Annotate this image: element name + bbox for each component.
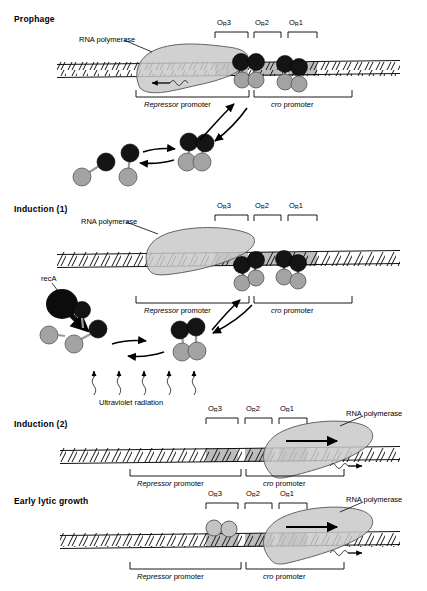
repressor-promoter-label-p3: Repressor promoter: [137, 479, 204, 488]
panel-prophage-art: [57, 32, 400, 186]
repressor-monomer-cleaved-p2: [65, 320, 107, 353]
operator-label-or3-p3: OR3: [208, 404, 222, 413]
operator-label-or1-p1: OR1: [289, 18, 303, 27]
operator-label-or2-p1: OR2: [255, 18, 269, 27]
repressor-dimer-or2-p2: [234, 252, 265, 292]
operator-brackets-p3: [206, 418, 307, 424]
release-arrows-p2: [212, 300, 252, 333]
uv-radiation-label: Ultraviolet radiation: [99, 398, 163, 407]
operator-label-or2-p4: OR2: [246, 489, 260, 498]
operator-brackets-p4: [206, 503, 307, 509]
repressor-monomer-b-p1: [119, 144, 139, 186]
repressor-dimer-free-p2: [171, 318, 206, 361]
repressor-dimer-or1-p2: [276, 251, 307, 290]
rna-polymerase-label-p2: RNA polymerase: [81, 217, 137, 226]
operator-label-or2-p3: OR2: [246, 404, 260, 413]
cro-promoter-label-p4: cro promoter: [263, 572, 306, 581]
operator-brackets-p1: [215, 32, 317, 38]
equilibrium-arrows-p1: [140, 148, 175, 163]
panel-title-induction-2: Induction (2): [14, 419, 68, 429]
repressor-promoter-label-p2: Repressor promoter: [144, 306, 211, 315]
uv-radiation-arrows: [92, 371, 196, 395]
operator-label-or1-p2: OR1: [289, 201, 303, 210]
transcript-arrow-p3: [330, 464, 362, 469]
reca-label: recA: [41, 274, 56, 283]
rna-polymerase-p1: [137, 44, 248, 93]
transcript-arrow-p4: [330, 551, 362, 556]
equilibrium-arrows-p2: [112, 340, 164, 356]
cro-promoter-label-p2: cro promoter: [271, 306, 314, 315]
panel-title-induction-1: Induction (1): [14, 204, 68, 214]
repressor-dimer-free-p1: [178, 133, 214, 171]
cro-promoter-label-p1: cro promoter: [271, 100, 314, 109]
rna-polymerase-label-p3: RNA polymerase: [346, 409, 402, 418]
rna-polymerase-p4: [264, 507, 373, 564]
panel-induction2-art: [60, 416, 400, 478]
operator-label-or3-p2: OR3: [217, 201, 231, 210]
repressor-promoter-label-p4: Repressor promoter: [137, 572, 204, 581]
operator-label-or3-p1: OR3: [217, 18, 231, 27]
operator-label-or1-p4: OR1: [280, 489, 294, 498]
repressor-promoter-label-p1: Repressor promoter: [144, 100, 211, 109]
cro-promoter-label-p3: cro promoter: [263, 479, 306, 488]
promoter-brackets-p4: [130, 562, 344, 569]
promoter-brackets-p2: [136, 296, 352, 303]
operator-label-or3-p4: OR3: [208, 489, 222, 498]
rna-polymerase-label-p1: RNA polymerase: [79, 35, 135, 44]
panel-earlylytic-art: [60, 502, 400, 569]
operator-label-or1-p3: OR1: [280, 404, 294, 413]
reca-leader: [52, 283, 58, 291]
operator-brackets-p2: [215, 215, 317, 221]
rna-polymerase-p3: [264, 421, 373, 478]
figure-canvas: Prophage OR3 OR2 OR1 RNA polymerase Repr…: [0, 0, 427, 591]
panel-title-early-lytic-growth: Early lytic growth: [14, 496, 88, 506]
repressor-monomer-a-p1: [73, 153, 115, 186]
panel-induction1-art: [40, 215, 400, 395]
panel-title-prophage: Prophage: [14, 14, 55, 24]
rna-polymerase-label-p4: RNA polymerase: [346, 495, 402, 504]
operator-label-or2-p2: OR2: [255, 201, 269, 210]
